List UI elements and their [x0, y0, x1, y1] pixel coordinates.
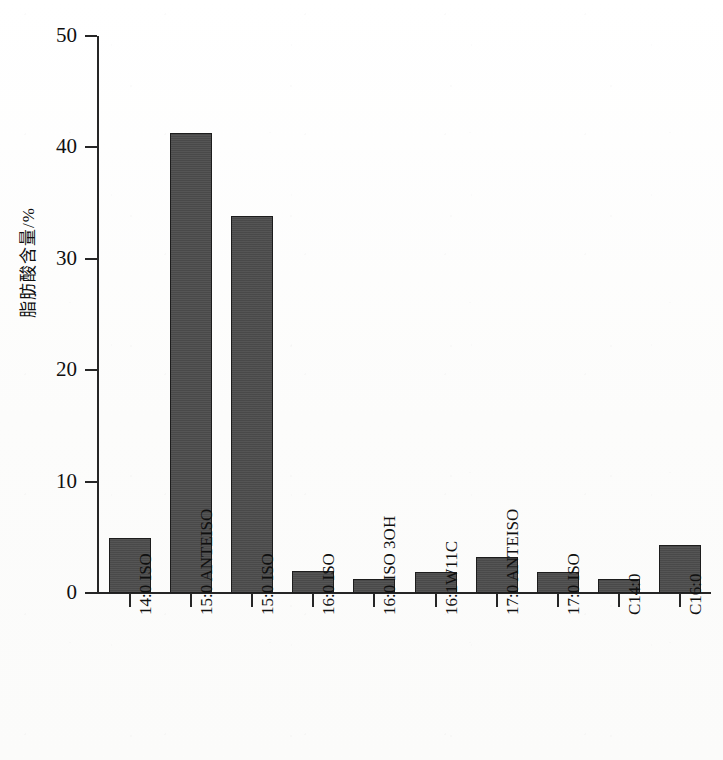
y-axis-tick-label: 0 [27, 582, 77, 603]
x-axis-tick [251, 594, 253, 607]
x-axis-tick [618, 594, 620, 607]
y-axis-tick [85, 258, 97, 260]
x-axis-tick [190, 594, 192, 607]
x-axis-tick [373, 594, 375, 607]
y-axis-tick-label-text: 10 [31, 471, 77, 492]
x-axis-tick [679, 594, 681, 607]
y-axis-tick [85, 369, 97, 371]
bar-chart-figure: 脂肪酸含量/% 01020304050 14:0 ISO15:0 ANTEISO… [0, 0, 723, 760]
x-axis-category-label-text: 16:0 ISO [320, 553, 338, 615]
y-axis-tick-label-text: 20 [31, 359, 77, 380]
x-axis-category-label-text: 16:1W11C [443, 541, 461, 615]
x-axis-category-label-text: C16:0 [687, 573, 705, 615]
x-axis-category-label-text: 16:0 ISO 3OH [381, 516, 399, 615]
x-axis-tick [557, 594, 559, 607]
y-axis-tick-label-text: 50 [31, 25, 77, 46]
y-axis-tick [85, 481, 97, 483]
y-axis-tick-label: 20 [27, 359, 77, 380]
y-axis-tick-label-text: 30 [31, 248, 77, 269]
x-axis-category-label-text: 15:0 ISO [259, 553, 277, 615]
y-axis-tick-label: 10 [27, 471, 77, 492]
x-axis-tick [435, 594, 437, 607]
y-axis-tick-label: 50 [27, 25, 77, 46]
x-axis-category-label-text: C14:0 [626, 573, 644, 615]
y-axis-tick-label-text: 40 [31, 136, 77, 157]
bar [231, 216, 273, 593]
y-axis-tick [85, 35, 97, 37]
y-axis-tick-label-text: 0 [31, 582, 77, 603]
x-axis-category-label-text: 17:0 ANTEISO [504, 509, 522, 615]
x-axis-tick [129, 594, 131, 607]
y-axis-tick [85, 146, 97, 148]
y-axis-tick [85, 592, 97, 594]
y-axis-line [97, 36, 99, 594]
x-axis-tick [496, 594, 498, 607]
y-axis-tick-label: 30 [27, 248, 77, 269]
x-axis-category-label-text: 17:0 ISO [565, 553, 583, 615]
paper-texture [0, 0, 723, 760]
y-axis-title: 脂肪酸含量/% [14, 138, 39, 318]
y-axis-tick-label: 40 [27, 136, 77, 157]
x-axis-tick [312, 594, 314, 607]
x-axis-category-label-text: 14:0 ISO [137, 553, 155, 615]
x-axis-category-label-text: 15:0 ANTEISO [198, 509, 216, 615]
